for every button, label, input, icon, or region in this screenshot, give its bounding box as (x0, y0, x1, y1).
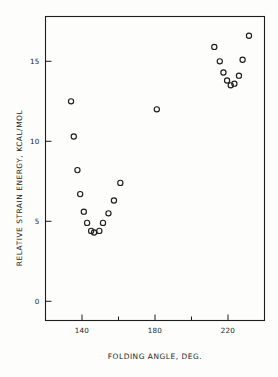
y-tick-label: 15 (30, 57, 40, 66)
y-tick-label: 10 (30, 137, 40, 146)
x-tick-label: 220 (221, 326, 236, 335)
x-tick-label: 180 (148, 326, 163, 335)
y-tick-label: 5 (35, 217, 40, 226)
x-tick-label: 140 (75, 326, 90, 335)
y-axis-title: RELATIVE STRAIN ENERGY, KCAL/MOL (15, 110, 24, 267)
strain-energy-scatter-plot: 140180220 051015 FOLDING ANGLE, DEG. REL… (0, 0, 278, 377)
scatter-chart-figure: 140180220 051015 FOLDING ANGLE, DEG. REL… (0, 0, 278, 377)
x-axis-title: FOLDING ANGLE, DEG. (108, 352, 202, 361)
y-tick-label: 0 (35, 297, 40, 306)
